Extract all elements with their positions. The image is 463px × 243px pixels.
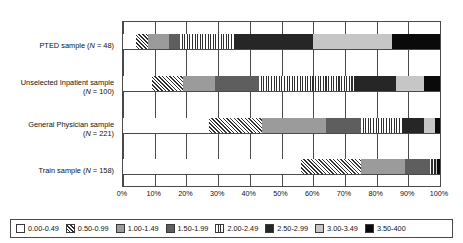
bar-segment — [259, 76, 354, 91]
legend-label: 1.50-1.99 — [178, 224, 209, 233]
legend: 0.00-0.490.50-0.991.00-1.491.50-1.992.00… — [10, 219, 453, 238]
row-separator-3 — [123, 91, 440, 92]
category-label-pted: PTED sample (N = 48) — [39, 41, 114, 50]
legend-swatch-icon — [166, 224, 175, 233]
bar-segment — [424, 76, 440, 91]
legend-swatch-icon — [116, 224, 125, 233]
bar-segment — [234, 34, 313, 49]
bar-segment — [136, 34, 149, 49]
x-tick-label-1: 10% — [146, 189, 160, 198]
bar-segment — [123, 118, 209, 133]
bar-segment — [402, 118, 424, 133]
bar-segment — [396, 76, 425, 91]
x-tick-label-2: 20% — [178, 189, 192, 198]
x-axis-tick-labels: 0%10%20%30%40%50%60%70%80%90%100% — [122, 189, 441, 203]
legend-swatch-icon — [66, 224, 75, 233]
legend-item-6[interactable]: 3.00-3.49 — [315, 224, 358, 233]
category-label-train: Train sample (N = 158) — [38, 166, 114, 175]
category-label-general-physician: General Physician sample (N = 221) — [28, 120, 114, 138]
legend-item-0[interactable]: 0.00-0.49 — [16, 224, 59, 233]
legend-swatch-icon — [365, 224, 374, 233]
bar-2 — [123, 76, 440, 91]
bar-segment — [183, 76, 215, 91]
legend-swatch-icon — [215, 224, 224, 233]
bar-segment — [123, 159, 301, 174]
x-tick-label-3: 30% — [210, 189, 224, 198]
legend-item-3[interactable]: 1.50-1.99 — [166, 224, 209, 233]
gridline-100 — [440, 22, 441, 186]
x-tick-label-5: 50% — [273, 189, 287, 198]
bar-segment — [361, 118, 402, 133]
bar-segment — [148, 34, 169, 49]
category-label-line-2: (N = 100) — [21, 87, 114, 96]
legend-swatch-icon — [315, 224, 324, 233]
row-separator-5 — [123, 133, 440, 134]
bar-segment — [354, 76, 395, 91]
legend-swatch-icon — [16, 224, 25, 233]
legend-item-5[interactable]: 2.50-2.99 — [265, 224, 308, 233]
x-tick-label-8: 80% — [368, 189, 382, 198]
bar-3 — [123, 118, 440, 133]
legend-item-7[interactable]: 3.50-400 — [365, 224, 406, 233]
legend-item-4[interactable]: 2.00-2.49 — [215, 224, 258, 233]
category-label-unselected-inpatient: Unselected Inpatient sample (N = 100) — [21, 78, 114, 96]
x-tick-label-7: 70% — [337, 189, 351, 198]
plot-area — [122, 21, 441, 187]
bar-segment — [215, 76, 259, 91]
x-tick-label-9: 90% — [400, 189, 414, 198]
legend-item-2[interactable]: 1.00-1.49 — [116, 224, 159, 233]
x-tick-label-10: 100% — [430, 189, 448, 198]
bar-segment — [326, 118, 361, 133]
bar-segment — [123, 76, 152, 91]
bar-segment — [152, 76, 184, 91]
row-separator-1 — [123, 49, 440, 50]
row-separator-7 — [123, 174, 440, 175]
bar-segment — [361, 159, 405, 174]
bar-segment — [405, 159, 430, 174]
x-tick-label-6: 60% — [305, 189, 319, 198]
legend-label: 1.00-1.49 — [128, 224, 159, 233]
legend-label: 3.00-3.49 — [327, 224, 358, 233]
bar-segment — [424, 118, 435, 133]
bar-segment — [392, 34, 440, 49]
legend-label: 2.50-2.99 — [277, 224, 308, 233]
bar-segment — [313, 34, 392, 49]
bar-4 — [123, 159, 440, 174]
bar-segment — [437, 159, 440, 174]
bar-segment — [169, 34, 180, 49]
category-label-line-1: General Physician sample — [28, 120, 114, 129]
bar-segment — [435, 118, 440, 133]
legend-label: 0.50-0.99 — [78, 224, 109, 233]
bar-segment — [180, 34, 234, 49]
bar-segment — [123, 34, 136, 49]
stacked-bar-chart: PTED sample (N = 48) Unselected Inpatien… — [0, 0, 463, 243]
legend-label: 3.50-400 — [377, 224, 406, 233]
category-label-line-1: Unselected Inpatient sample — [21, 78, 114, 87]
legend-item-1[interactable]: 0.50-0.99 — [66, 224, 109, 233]
bar-segment — [209, 118, 263, 133]
x-tick-label-0: 0% — [117, 189, 127, 198]
legend-swatch-icon — [265, 224, 274, 233]
bar-segment — [262, 118, 325, 133]
category-axis-labels: PTED sample (N = 48) Unselected Inpatien… — [0, 21, 118, 187]
category-label-line-2: (N = 221) — [28, 129, 114, 138]
bar-segment — [301, 159, 361, 174]
legend-label: 0.00-0.49 — [28, 224, 59, 233]
bar-1 — [123, 34, 440, 49]
legend-label: 2.00-2.49 — [227, 224, 258, 233]
x-tick-label-4: 40% — [242, 189, 256, 198]
